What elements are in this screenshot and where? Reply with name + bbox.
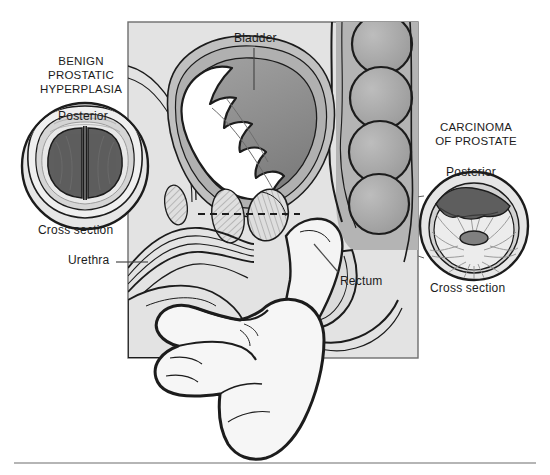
sigmoid-colon — [329, 14, 418, 262]
bph-posterior-label: Posterior — [48, 110, 118, 123]
bph-cross-section-label: Cross section — [38, 224, 113, 237]
carcinoma-posterior-label: Posterior — [436, 166, 506, 179]
urethra-label: Urethra — [68, 254, 109, 267]
bladder-label: Bladder — [234, 32, 277, 45]
bph-title: BENIGN PROSTATIC HYPERPLASIA — [18, 54, 144, 96]
carcinoma-title: CARCINOMA OF PROSTATE — [420, 120, 532, 148]
rectum-label: Rectum — [340, 275, 383, 288]
carcinoma-cross-section-label: Cross section — [430, 282, 505, 295]
